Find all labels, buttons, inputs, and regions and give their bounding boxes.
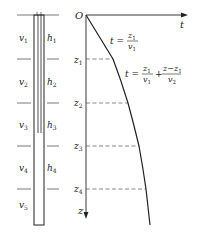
equation-2-frac2-numerator: z−z1 (162, 64, 182, 74)
z-axis-label: z (77, 205, 84, 216)
layered-model: v1 v2 v3 v4 v5 h1 h2 h3 h4 (17, 12, 59, 225)
depth-marker-3: z3 (73, 141, 83, 152)
equation-2-plus: + (155, 69, 163, 79)
t-axis-arrow-icon (181, 13, 188, 18)
depth-marker-4: z4 (73, 184, 83, 195)
equation-2-frac1-denominator: v1 (143, 75, 151, 85)
travel-time-curve (86, 15, 150, 225)
origin-label: O (75, 10, 83, 21)
velocity-label-4: v4 (19, 163, 28, 174)
depth-markers: z1 z2 z3 z4 (73, 55, 83, 195)
t-axis-label: t (180, 19, 185, 30)
velocity-label-3: v3 (19, 120, 28, 131)
borehole (34, 12, 44, 225)
thickness-label-3: h3 (47, 120, 57, 131)
velocity-label-1: v1 (19, 33, 28, 44)
equation-2-frac2-denominator: v2 (168, 75, 176, 85)
equation-2-frac1-numerator: z1 (142, 64, 151, 74)
depth-marker-2: z2 (73, 98, 83, 109)
equation-2: t = z1 v1 + z−z1 v2 (125, 64, 182, 85)
z-axis-arrow-icon (84, 212, 89, 219)
thickness-label-4: h4 (47, 163, 57, 174)
velocity-label-5: v5 (19, 200, 28, 211)
equation-1-numerator: z1 (127, 31, 136, 41)
equation-1-denominator: v1 (128, 42, 136, 52)
equation-1: t = z1 v1 (110, 31, 138, 52)
borehole-casing (34, 15, 44, 225)
depth-marker-1: z1 (73, 55, 83, 66)
thickness-labels: h1 h2 h3 h4 (47, 33, 57, 174)
velocity-label-2: v2 (19, 77, 28, 88)
velocity-labels: v1 v2 v3 v4 v5 (19, 33, 28, 211)
thickness-label-1: h1 (47, 33, 57, 44)
travel-time-depth-diagram: v1 v2 v3 v4 v5 h1 h2 h3 h4 O t z (0, 0, 204, 237)
thickness-label-2: h2 (47, 77, 57, 88)
time-depth-plot: O t z z1 z2 z3 z4 t = z1 v1 t = z (73, 10, 188, 225)
equation-1-lhs: t = (110, 36, 124, 46)
equation-2-lhs: t = (125, 69, 139, 79)
